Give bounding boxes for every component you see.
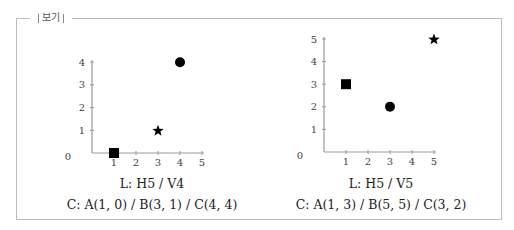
x-tick-label: 3 — [155, 157, 161, 168]
origin-label: 0 — [65, 151, 71, 162]
x-tick-label: 5 — [431, 156, 437, 167]
x-tick-label: 2 — [365, 156, 371, 167]
star-marker — [428, 34, 439, 45]
plots: 1234512340 12345123450 — [0, 0, 514, 230]
right-caption-l: L: H5 / V5 — [266, 176, 496, 191]
star-marker — [152, 125, 163, 136]
y-tick-label: 2 — [311, 101, 317, 112]
circle-marker — [175, 57, 185, 67]
left-plot: 1234512340 — [65, 57, 205, 168]
y-tick-label: 3 — [311, 79, 317, 90]
y-tick-label: 5 — [311, 34, 317, 45]
x-tick-label: 1 — [343, 156, 349, 167]
circle-marker — [385, 102, 395, 112]
y-tick-label: 4 — [311, 56, 317, 67]
y-tick-label: 1 — [311, 124, 317, 135]
y-tick-label: 4 — [79, 57, 85, 68]
left-caption-l: L: H5 / V4 — [42, 176, 262, 191]
x-tick-label: 5 — [199, 157, 205, 168]
right-caption-c: C: A(1, 3) / B(5, 5) / C(3, 2) — [266, 197, 496, 212]
left-caption-c: C: A(1, 0) / B(3, 1) / C(4, 4) — [42, 197, 262, 212]
x-tick-label: 4 — [409, 156, 415, 167]
y-tick-label: 2 — [79, 102, 85, 113]
square-marker — [109, 148, 119, 158]
right-plot: 12345123450 — [297, 34, 440, 168]
x-tick-label: 3 — [387, 156, 393, 167]
y-tick-label: 1 — [79, 125, 85, 136]
y-tick-label: 3 — [79, 79, 85, 90]
origin-label: 0 — [297, 150, 303, 161]
x-tick-label: 1 — [111, 157, 117, 168]
x-tick-label: 4 — [177, 157, 183, 168]
x-tick-label: 2 — [133, 157, 139, 168]
square-marker — [341, 79, 351, 89]
